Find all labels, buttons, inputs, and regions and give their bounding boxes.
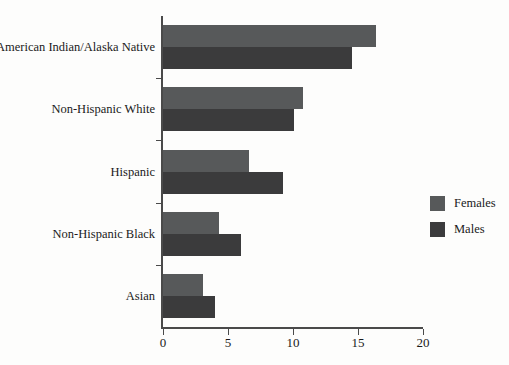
x-tick-label: 20: [417, 336, 430, 349]
bar-males-2: [163, 172, 283, 194]
bar-males-0: [163, 47, 352, 69]
plot-area: [163, 16, 423, 327]
category-label: Non-Hispanic Black: [53, 227, 155, 240]
category-label: Non-Hispanic White: [51, 103, 155, 116]
category-label: American Indian/Alaska Native: [0, 41, 155, 54]
legend-item-males[interactable]: Males: [430, 216, 496, 242]
category-label: Asian: [126, 290, 155, 303]
y-tick: [156, 203, 163, 204]
bar-males-3: [163, 234, 241, 256]
y-tick: [156, 140, 163, 141]
legend-label-females: Females: [454, 197, 496, 210]
bar-females-0: [163, 25, 376, 47]
x-axis-line: [161, 327, 423, 329]
bar-females-1: [163, 87, 303, 109]
bar-females-2: [163, 150, 249, 172]
legend-item-females[interactable]: Females: [430, 190, 496, 216]
legend: Females Males: [430, 190, 496, 242]
x-tick-label: 10: [287, 336, 300, 349]
legend-swatch-females-icon: [430, 196, 445, 211]
x-tick-label: 0: [160, 336, 167, 349]
y-tick: [156, 78, 163, 79]
bar-chart: American Indian/Alaska NativeNon-Hispani…: [0, 0, 509, 365]
legend-swatch-males-icon: [430, 222, 445, 237]
bar-females-3: [163, 212, 219, 234]
bar-females-4: [163, 274, 203, 296]
x-tick-label: 15: [352, 336, 365, 349]
y-tick: [156, 265, 163, 266]
bar-males-4: [163, 296, 215, 318]
bar-males-1: [163, 109, 294, 131]
x-tick-label: 5: [225, 336, 232, 349]
legend-label-males: Males: [454, 223, 485, 236]
category-label: Hispanic: [111, 165, 155, 178]
